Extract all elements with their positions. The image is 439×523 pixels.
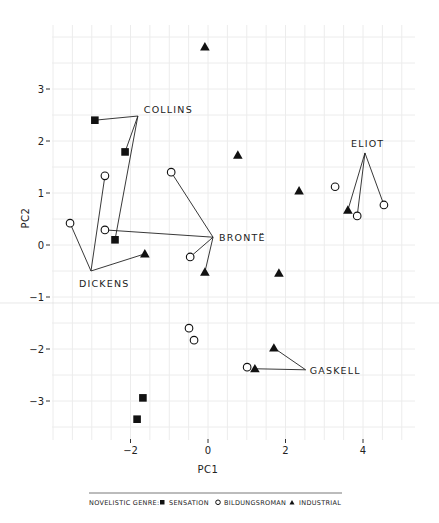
legend-item-industrial: INDUSTRIAL <box>290 499 342 507</box>
legend-title: NOVELISTIC GENRE: <box>89 499 160 507</box>
leader-line <box>125 116 138 152</box>
y-tick-label: −3 <box>29 396 44 407</box>
leader-line <box>171 172 213 237</box>
point-sensation <box>139 394 147 402</box>
point-bildungsroman <box>186 253 194 261</box>
point-bildungsroman <box>380 201 388 209</box>
author-label-eliot: ELIOT <box>351 138 384 149</box>
y-tick-label: 3 <box>38 84 44 95</box>
point-industrial <box>294 186 304 194</box>
leader-line <box>357 153 365 216</box>
y-tick-label: 0 <box>38 240 44 251</box>
point-bildungsroman <box>243 363 251 371</box>
author-label-dickens: DICKENS <box>79 278 130 289</box>
author-label-collins: COLLINS <box>144 104 193 115</box>
x-tick-label: 0 <box>205 445 211 456</box>
point-sensation <box>133 415 141 423</box>
point-bildungsroman <box>185 324 193 332</box>
y-axis-title: PC2 <box>20 208 31 229</box>
x-tick-label: 4 <box>360 445 366 456</box>
leader-line <box>115 116 138 240</box>
legend-label-industrial: INDUSTRIAL <box>299 499 341 507</box>
leader-line <box>205 237 213 272</box>
point-bildungsroman <box>331 183 339 191</box>
y-tick-label: −1 <box>29 292 44 303</box>
point-sensation <box>91 116 99 124</box>
point-bildungsroman <box>167 168 175 176</box>
leader-line <box>95 116 138 120</box>
pca-scatter-chart: 3210−1−2−3 −2024 PC1 PC2 COLLINSDICKENSB… <box>0 0 439 523</box>
y-tick-label: −2 <box>29 344 44 355</box>
point-bildungsroman <box>66 219 74 227</box>
point-industrial <box>233 150 243 158</box>
point-bildungsroman <box>353 212 361 220</box>
leader-line <box>274 348 306 370</box>
leader-line <box>105 230 213 237</box>
legend-label-sensation: SENSATION <box>169 499 209 507</box>
square-marker-icon <box>160 500 165 505</box>
point-bildungsroman <box>190 336 198 344</box>
legend-item-bildungsroman: BILDUNGSROMAN <box>216 499 287 507</box>
author-labels: COLLINSDICKENSBRONTËELIOTGASKELL <box>79 104 384 376</box>
x-tick-label: −2 <box>123 445 138 456</box>
point-industrial <box>269 343 279 351</box>
x-tick-label: 2 <box>282 445 288 456</box>
point-sensation <box>121 148 129 156</box>
x-axis-ticks: −2024 <box>123 439 366 456</box>
point-bildungsroman <box>101 226 109 234</box>
leader-line <box>91 254 145 271</box>
author-label-bront: BRONTË <box>219 232 266 243</box>
point-bildungsroman <box>101 172 109 180</box>
leader-line <box>365 153 384 205</box>
point-industrial <box>274 268 284 276</box>
leader-line <box>70 223 91 271</box>
legend: NOVELISTIC GENRE: SENSATION BILDUNGSROMA… <box>89 493 342 507</box>
triangle-marker-icon <box>290 500 295 505</box>
point-sensation <box>111 236 119 244</box>
legend-label-bildungsroman: BILDUNGSROMAN <box>224 499 286 507</box>
leader-line <box>91 176 105 271</box>
y-tick-label: 1 <box>38 188 44 199</box>
y-axis-ticks: 3210−1−2−3 <box>29 84 50 407</box>
leader-line <box>190 237 213 257</box>
legend-item-sensation: SENSATION <box>160 499 209 507</box>
leader-line <box>348 153 365 210</box>
leader-line <box>255 369 306 370</box>
author-label-gaskell: GASKELL <box>310 365 361 376</box>
point-industrial <box>343 205 353 213</box>
x-axis-title: PC1 <box>198 464 219 475</box>
point-industrial <box>140 249 150 257</box>
point-industrial <box>250 364 260 372</box>
y-tick-label: 2 <box>38 136 44 147</box>
circle-marker-icon <box>216 500 221 505</box>
